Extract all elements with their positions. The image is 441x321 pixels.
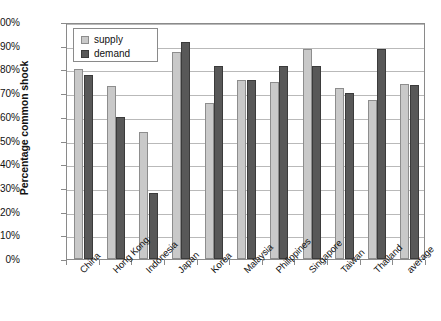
percentage-common-shock-bar-chart: Percentage common shock 0%10%20%30%40%50…: [0, 0, 441, 321]
legend-item-supply: supply: [81, 33, 157, 46]
bar-demand-singapore: [312, 66, 321, 259]
legend-item-demand: demand: [81, 47, 157, 60]
bar-demand-taiwan: [345, 93, 354, 259]
bar-supply-korea: [205, 103, 214, 259]
bar-demand-korea: [214, 66, 223, 259]
x-axis-tick-mark: [66, 260, 67, 265]
bar-demand-thailand: [377, 49, 386, 259]
y-axis-tick-label: 50%: [0, 137, 20, 147]
bar-supply-china: [74, 69, 83, 259]
bar-demand-philippines: [279, 66, 288, 259]
bar-demand-hong-kong: [116, 117, 125, 259]
chart-legend: supply demand: [73, 28, 158, 62]
y-axis-tick-label: 20%: [0, 208, 20, 218]
bar-demand-china: [84, 75, 93, 259]
legend-label-supply: supply: [94, 35, 123, 45]
bar-demand-average: [410, 85, 419, 259]
legend-swatch-supply-icon: [81, 36, 89, 44]
gridline: [67, 71, 424, 72]
bar-supply-singapore: [303, 49, 312, 259]
legend-swatch-demand-icon: [81, 50, 89, 58]
bar-demand-indonesia: [149, 193, 158, 259]
y-axis-tick-label: 40%: [0, 160, 20, 170]
gridline: [67, 24, 424, 25]
y-axis-tick-label: 100%: [0, 18, 20, 28]
y-axis-tick-label: 90%: [0, 42, 20, 52]
bar-demand-malaysia: [247, 80, 256, 259]
bar-supply-thailand: [368, 100, 377, 259]
bar-supply-japan: [172, 52, 181, 259]
y-axis-tick-label: 70%: [0, 89, 20, 99]
bar-demand-japan: [181, 42, 190, 259]
y-axis-tick-label: 10%: [0, 231, 20, 241]
bar-supply-hong-kong: [107, 86, 116, 259]
bar-supply-malaysia: [237, 80, 246, 259]
y-axis-tick-label: 0%: [0, 255, 20, 265]
y-axis-tick-label: 80%: [0, 65, 20, 75]
legend-label-demand: demand: [94, 49, 130, 59]
y-axis-tick-label: 30%: [0, 184, 20, 194]
bar-supply-average: [400, 84, 409, 259]
bar-supply-philippines: [270, 82, 279, 259]
bar-supply-taiwan: [335, 88, 344, 259]
y-axis-tick-label: 60%: [0, 113, 20, 123]
